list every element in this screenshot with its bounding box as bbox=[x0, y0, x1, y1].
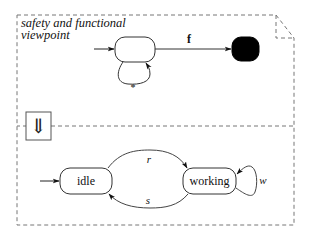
self-loop-star bbox=[118, 62, 150, 84]
state-unnamed bbox=[115, 37, 155, 62]
transition-w bbox=[236, 166, 257, 195]
state-idle-label: idle bbox=[77, 174, 95, 188]
transition-f-label: f bbox=[187, 32, 192, 46]
state-working-label: working bbox=[190, 174, 230, 188]
double-down-arrow-icon: ⇓ bbox=[30, 115, 47, 137]
transition-s-label: s bbox=[146, 194, 150, 206]
viewpoint-diagram: safety and functional viewpoint ⇓ * f id… bbox=[0, 0, 310, 238]
state-failure bbox=[232, 37, 259, 61]
transition-w-label: w bbox=[259, 174, 267, 186]
viewpoint-title-line2: viewpoint bbox=[21, 28, 70, 42]
lower-statechart: idle working r s w bbox=[40, 150, 267, 208]
self-loop-star-label: * bbox=[131, 82, 136, 93]
upper-statechart: * f bbox=[94, 32, 259, 93]
refinement-box: ⇓ bbox=[26, 112, 51, 140]
transition-r-label: r bbox=[147, 153, 152, 165]
